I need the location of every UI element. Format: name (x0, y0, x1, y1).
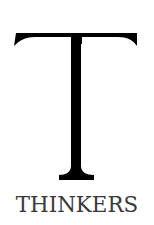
wordmark-text: THINKERS (5, 190, 148, 218)
monogram-t-icon (0, 0, 154, 190)
